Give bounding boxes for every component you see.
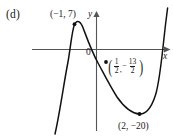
inflection-y-numerator: 13: [128, 58, 138, 66]
figure-container: (d) y x 0 (−1, 7) (2, −20) ( 1 2 , − 13 …: [0, 0, 173, 136]
inflection-open-paren: (: [108, 59, 112, 74]
y-axis-label: y: [88, 10, 92, 20]
local-min-label: (2, −20): [118, 122, 149, 132]
point-local-max-dot: [73, 22, 77, 26]
x-axis: [32, 46, 171, 52]
local-max-label: (−1, 7): [50, 10, 76, 20]
cubic-graph-svg: [0, 0, 173, 136]
y-axis-arrowhead: [93, 11, 99, 17]
inflection-x-denominator: 2: [114, 66, 120, 75]
y-axis: [93, 11, 99, 131]
inflection-point-label: ( 1 2 , − 13 2 ): [107, 58, 144, 75]
point-local-min-dot: [138, 112, 142, 116]
inflection-minus-sign: −: [122, 62, 128, 70]
x-axis-label: x: [163, 52, 167, 62]
inflection-close-paren: ): [139, 59, 143, 74]
inflection-y-denominator: 2: [130, 66, 136, 75]
origin-label: 0: [86, 48, 91, 58]
part-label: (d): [6, 8, 20, 20]
inflection-x-fraction: 1 2: [114, 58, 120, 75]
inflection-y-fraction: 13 2: [128, 58, 138, 75]
inflection-x-numerator: 1: [114, 58, 120, 66]
